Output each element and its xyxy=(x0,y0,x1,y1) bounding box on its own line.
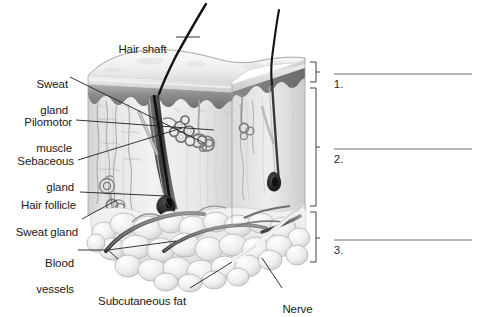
bracket-1-shape xyxy=(310,62,316,82)
bracket-3-shape xyxy=(310,212,316,262)
skin-block xyxy=(87,50,310,292)
label-hair-shaft: Hair shaft xyxy=(106,30,167,69)
layer-brackets xyxy=(310,62,320,262)
bracket-number-3: 3. xyxy=(321,232,343,268)
label-nerve: Nerve xyxy=(270,290,313,317)
bracket-number-2: 2. xyxy=(321,141,343,177)
bracket-number-1: 1. xyxy=(321,66,343,102)
bracket-2-shape xyxy=(310,88,316,206)
label-subcutaneous-fat: Subcutaneous fat xyxy=(44,282,186,317)
answer-lines[interactable] xyxy=(334,74,472,240)
